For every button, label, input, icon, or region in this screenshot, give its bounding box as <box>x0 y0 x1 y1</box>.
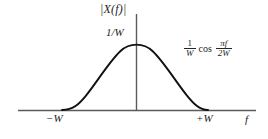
argument-denominator: 2W <box>216 48 232 58</box>
cosine-operator: cos <box>199 44 212 54</box>
peak-value-label: 1/W <box>106 27 124 38</box>
plot-canvas <box>0 0 268 139</box>
spectrum-figure: |X(f)| 1/W −W +W f 1 W cos πf 2W <box>0 0 268 139</box>
amplitude-numerator: 1 <box>186 39 195 48</box>
y-axis-title: |X(f)| <box>100 3 126 15</box>
x-tick-label-negative-w: −W <box>46 113 63 124</box>
argument-numerator: πf <box>218 39 229 48</box>
amplitude-denominator: W <box>184 48 196 58</box>
argument-fraction: πf 2W <box>216 39 232 59</box>
x-axis-title: f <box>245 114 248 125</box>
curve-equation-annotation: 1 W cos πf 2W <box>184 39 232 59</box>
amplitude-fraction: 1 W <box>184 39 196 59</box>
x-tick-label-positive-w: +W <box>196 113 213 124</box>
